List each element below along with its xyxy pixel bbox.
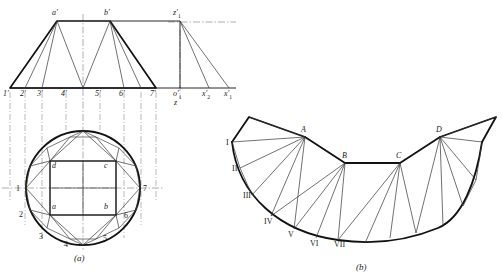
label-x1-prime: x′1: [224, 90, 232, 100]
label-x2-prime: x′2: [202, 90, 210, 100]
label-dev-D: D: [436, 126, 442, 134]
projector-lines: [10, 30, 180, 238]
label-circle-3: 3: [39, 233, 43, 241]
auxiliary-true-length-lines: [180, 21, 229, 88]
label-2-prime: 2′: [20, 90, 26, 98]
technical-drawing: [0, 0, 502, 278]
label-circle-1: 1: [16, 185, 20, 193]
label-dev-IV: IV: [264, 218, 272, 226]
label-dev-V: V: [288, 231, 294, 239]
label-6-prime: 6′: [119, 90, 125, 98]
label-square-a: a: [52, 203, 56, 211]
label-dev-I: I: [226, 139, 229, 147]
label-b-prime: b′: [104, 9, 110, 17]
label-dev-II: II: [232, 165, 237, 173]
label-z1-prime: z′1: [173, 9, 181, 19]
figure-canvas: a′ b′ 1′ 2′ 3′ 4′ 5′ 6′ 7′ z′1 o′1 x′2 x…: [0, 0, 502, 278]
label-z-axis: z: [174, 99, 177, 107]
label-square-b: b: [104, 203, 108, 211]
label-3-prime: 3′: [37, 90, 43, 98]
label-a-prime: a′: [52, 9, 58, 17]
label-dev-VI: VI: [310, 240, 318, 248]
label-dev-A: A: [301, 126, 306, 134]
label-circle-5: 5: [103, 235, 107, 243]
label-square-d: d: [52, 162, 56, 170]
label-4-prime: 4′: [61, 90, 67, 98]
label-dev-B: B: [342, 152, 347, 160]
label-dev-III: III: [243, 192, 251, 200]
label-circle-4: 4: [64, 241, 68, 249]
label-dev-C: C: [396, 152, 401, 160]
label-dev-VII: VII: [334, 241, 345, 249]
label-5-prime: 5′: [95, 90, 101, 98]
caption-b: (b): [356, 262, 367, 272]
label-circle-7: 7: [143, 185, 147, 193]
label-circle-2: 2: [19, 211, 23, 219]
label-circle-6: 6: [124, 212, 128, 220]
label-1-prime: 1′: [3, 90, 9, 98]
label-7-prime: 7′: [150, 90, 156, 98]
label-square-c: c: [104, 162, 108, 170]
auxiliary-diagram: [110, 21, 236, 88]
caption-a: (a): [74, 253, 85, 263]
